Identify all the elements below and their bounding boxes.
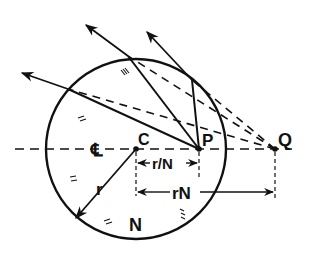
label-radius: r xyxy=(96,180,103,199)
label-rn: rN xyxy=(172,184,191,203)
label-p: P xyxy=(202,131,213,150)
label-q: Q xyxy=(278,130,292,150)
refracted-rays xyxy=(22,25,192,89)
label-medium: N xyxy=(129,215,142,235)
label-c: C xyxy=(138,131,150,148)
refraction-diagram: r/N rN C P Q ℄ r N xyxy=(0,0,316,255)
glass-hatch-marks xyxy=(70,68,185,224)
label-r-over-n: r/N xyxy=(152,155,173,172)
point-q xyxy=(272,146,278,152)
point-p xyxy=(196,146,202,152)
label-centerline: ℄ xyxy=(90,140,103,160)
radius-arrow xyxy=(76,149,136,218)
